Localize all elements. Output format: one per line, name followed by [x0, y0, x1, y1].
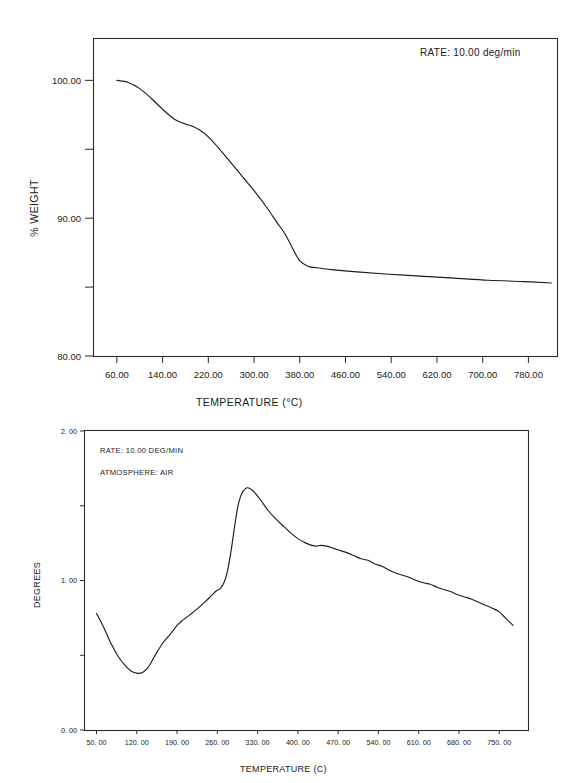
- x-tick-label: 140.00: [148, 369, 177, 380]
- tga-chart: 60.00140.00220.00300.00380.00460.00540.0…: [0, 0, 583, 420]
- y-tick-label: 80.00: [57, 351, 81, 362]
- tga-rate-annotation: RATE: 10.00 deg/min: [420, 47, 521, 58]
- x-tick-label: 540. 00: [366, 738, 390, 747]
- x-tick-label: 400. 00: [286, 738, 310, 747]
- tga-weight-loss-curve: [117, 80, 551, 283]
- tga-y-tick-labels: 80.0090.00100.00: [52, 75, 81, 362]
- y-tick-label: 0. 00: [61, 726, 77, 735]
- x-tick-label: 60.00: [105, 369, 129, 380]
- dta-signal-curve: [97, 488, 514, 674]
- tga-x-tick-labels: 60.00140.00220.00300.00380.00460.00540.0…: [105, 369, 543, 380]
- dta-x-tick-labels: 50. 00120. 00190. 00260. 00330. 00400. 0…: [87, 738, 512, 747]
- x-tick-label: 780.00: [514, 369, 543, 380]
- x-tick-label: 50. 00: [87, 738, 107, 747]
- dta-x-axis-title: TEMPERATURE (C): [240, 764, 327, 774]
- tga-y-axis-title: % WEIGHT: [28, 179, 40, 237]
- x-tick-label: 220.00: [194, 369, 223, 380]
- tga-x-axis-title: TEMPERATURE (°C): [196, 396, 303, 408]
- x-tick-label: 380.00: [285, 369, 314, 380]
- dta-y-tick-labels: 0. 001. 002. 00: [61, 427, 77, 735]
- dta-y-axis-title: DEGREES: [32, 562, 42, 608]
- y-tick-label: 2. 00: [61, 427, 77, 436]
- tga-tick-marks: [85, 80, 528, 363]
- x-tick-label: 260. 00: [205, 738, 229, 747]
- thermal-analysis-figure: 60.00140.00220.00300.00380.00460.00540.0…: [0, 0, 583, 783]
- y-tick-label: 90.00: [57, 213, 81, 224]
- x-tick-label: 680. 00: [447, 738, 471, 747]
- y-tick-label: 1. 00: [61, 576, 77, 585]
- x-tick-label: 300.00: [240, 369, 269, 380]
- x-tick-label: 190. 00: [165, 738, 189, 747]
- x-tick-label: 120. 00: [125, 738, 149, 747]
- dta-rate-annotation: RATE: 10.00 DEG/MIN: [100, 446, 183, 455]
- tga-plot-frame: [94, 39, 558, 357]
- dta-atmosphere-annotation: ATMOSPHERE: AIR: [100, 468, 174, 477]
- x-tick-label: 750. 00: [487, 738, 511, 747]
- x-tick-label: 700.00: [468, 369, 497, 380]
- x-tick-label: 330. 00: [246, 738, 270, 747]
- y-tick-label: 100.00: [52, 75, 81, 86]
- x-tick-label: 470. 00: [326, 738, 350, 747]
- x-tick-label: 540.00: [377, 369, 406, 380]
- x-tick-label: 460.00: [331, 369, 360, 380]
- x-tick-label: 610. 00: [407, 738, 431, 747]
- dta-chart: 50. 00120. 00190. 00260. 00330. 00400. 0…: [0, 420, 583, 783]
- x-tick-label: 620.00: [422, 369, 451, 380]
